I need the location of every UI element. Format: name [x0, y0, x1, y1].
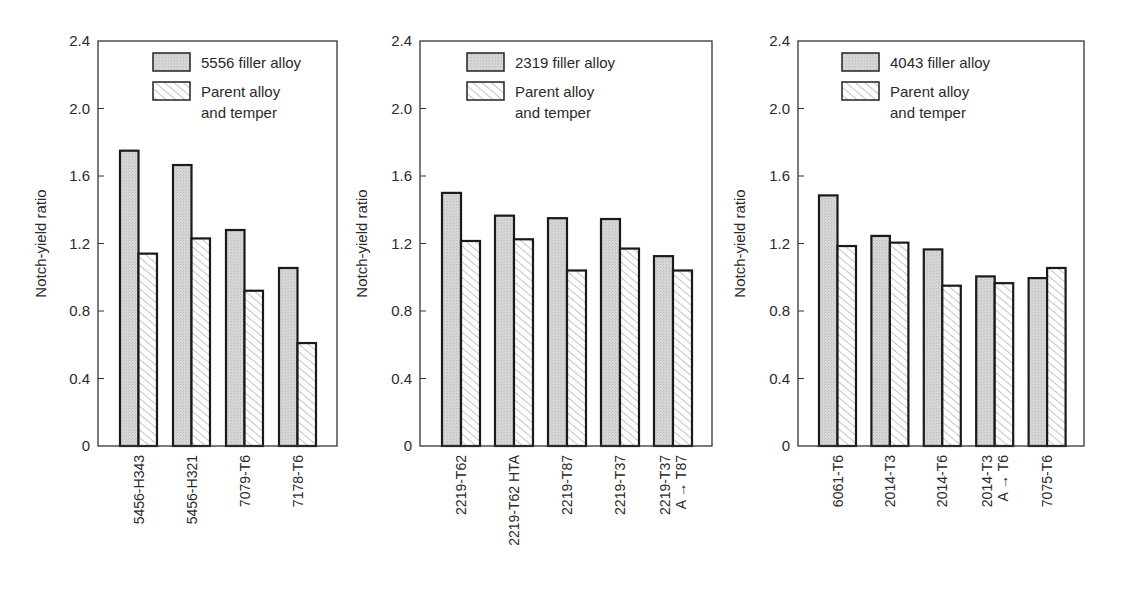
bar-filler-alloy-1 — [495, 216, 514, 446]
legend-swatch-filler-alloy — [842, 53, 879, 71]
bar-parent-alloy-4 — [1047, 268, 1066, 446]
legend-label: 2319 filler alloy — [515, 54, 616, 71]
legend-swatch-parent-alloy — [153, 82, 190, 100]
legend: 2319 filler alloyParent alloyand temper — [467, 53, 616, 121]
legend-label: 4043 filler alloy — [890, 54, 991, 71]
y-tick-label: 1.6 — [391, 167, 412, 184]
bar-filler-alloy-3 — [279, 268, 298, 446]
legend-label: 5556 filler alloy — [201, 54, 302, 71]
y-tick-label: 0.4 — [391, 370, 412, 387]
bar-parent-alloy-0 — [139, 254, 158, 446]
bar-filler-alloy-1 — [173, 165, 192, 446]
x-category-label: A → T87 — [673, 455, 689, 509]
y-tick-label: 2.4 — [391, 32, 412, 49]
y-axis-label: Notch-yield ratio — [32, 189, 49, 297]
x-category-label: 7079-T6 — [237, 455, 253, 507]
bar-parent-alloy-3 — [995, 283, 1014, 446]
x-category-label: 2219-T37 — [657, 455, 673, 515]
y-tick-label: 0 — [404, 437, 412, 454]
y-tick-label: 2.4 — [769, 32, 790, 49]
x-category-label: 5456-H343 — [131, 455, 147, 524]
legend-label: Parent alloy — [201, 83, 281, 100]
bar-filler-alloy-0 — [120, 151, 139, 446]
x-category-label: 2219-T62 HTA — [506, 454, 522, 545]
y-axis-label: Notch-yield ratio — [731, 189, 748, 297]
y-tick-label: 0.8 — [391, 302, 412, 319]
bar-parent-alloy-0 — [461, 241, 480, 446]
x-category-label: A → T6 — [995, 455, 1011, 502]
legend-label: and temper — [515, 104, 591, 121]
legend-swatch-filler-alloy — [467, 53, 504, 71]
legend-label: Parent alloy — [890, 83, 970, 100]
bar-filler-alloy-4 — [1029, 278, 1048, 446]
x-category-label: 7075-T6 — [1039, 455, 1055, 507]
y-tick-label: 0.8 — [769, 302, 790, 319]
x-category-label: 2014-T3 — [882, 455, 898, 507]
bar-filler-alloy-0 — [442, 193, 461, 446]
bar-parent-alloy-4 — [673, 271, 692, 447]
bar-filler-alloy-2 — [548, 218, 567, 446]
bar-parent-alloy-3 — [298, 343, 317, 446]
y-tick-label: 1.6 — [769, 167, 790, 184]
bar-filler-alloy-2 — [924, 249, 943, 446]
bar-parent-alloy-2 — [567, 271, 586, 447]
y-tick-label: 1.2 — [69, 235, 90, 252]
bar-filler-alloy-4 — [654, 256, 673, 446]
chart-panel-2319-filler: 00.40.81.21.62.02.4Notch-yield ratio2219… — [353, 32, 712, 546]
x-category-label: 2014-T3 — [979, 455, 995, 507]
legend-label: Parent alloy — [515, 83, 595, 100]
bar-filler-alloy-3 — [976, 276, 995, 446]
x-category-label: 7178-T6 — [290, 455, 306, 507]
y-tick-label: 1.2 — [391, 235, 412, 252]
y-tick-label: 0 — [782, 437, 790, 454]
chart-panel-5556-filler: 00.40.81.21.62.02.4Notch-yield ratio5456… — [32, 32, 337, 524]
y-tick-label: 0.4 — [769, 370, 790, 387]
legend-swatch-parent-alloy — [842, 82, 879, 100]
bar-filler-alloy-2 — [226, 230, 245, 446]
y-tick-label: 1.6 — [69, 167, 90, 184]
y-tick-label: 0.8 — [69, 302, 90, 319]
bar-parent-alloy-2 — [942, 286, 961, 446]
bar-parent-alloy-1 — [890, 243, 909, 446]
legend: 5556 filler alloyParent alloyand temper — [153, 53, 302, 121]
notch-yield-ratio-figure: 00.40.81.21.62.02.4Notch-yield ratio5456… — [0, 0, 1125, 603]
x-category-label: 2014-T6 — [934, 455, 950, 507]
x-category-label: 2219-T62 — [453, 455, 469, 515]
bar-filler-alloy-1 — [871, 236, 890, 446]
bar-parent-alloy-3 — [620, 249, 639, 446]
chart-panel-4043-filler: 00.40.81.21.62.02.4Notch-yield ratio6061… — [731, 32, 1084, 507]
legend: 4043 filler alloyParent alloyand temper — [842, 53, 991, 121]
y-tick-label: 0 — [82, 437, 90, 454]
bar-parent-alloy-2 — [245, 291, 264, 446]
y-tick-label: 2.4 — [69, 32, 90, 49]
x-category-label: 6061-T6 — [830, 455, 846, 507]
x-category-label: 2219-T37 — [612, 455, 628, 515]
bar-filler-alloy-0 — [819, 195, 838, 446]
legend-swatch-parent-alloy — [467, 82, 504, 100]
bar-filler-alloy-3 — [601, 219, 620, 446]
legend-label: and temper — [890, 104, 966, 121]
y-tick-label: 2.0 — [391, 100, 412, 117]
legend-label: and temper — [201, 104, 277, 121]
x-category-label: 5456-H321 — [184, 455, 200, 524]
y-axis-label: Notch-yield ratio — [353, 189, 370, 297]
y-tick-label: 0.4 — [69, 370, 90, 387]
y-tick-label: 1.2 — [769, 235, 790, 252]
x-category-label: 2219-T87 — [559, 455, 575, 515]
bar-parent-alloy-1 — [514, 239, 533, 446]
bar-parent-alloy-1 — [192, 238, 211, 446]
bar-parent-alloy-0 — [838, 246, 857, 446]
y-tick-label: 2.0 — [69, 100, 90, 117]
y-tick-label: 2.0 — [769, 100, 790, 117]
legend-swatch-filler-alloy — [153, 53, 190, 71]
